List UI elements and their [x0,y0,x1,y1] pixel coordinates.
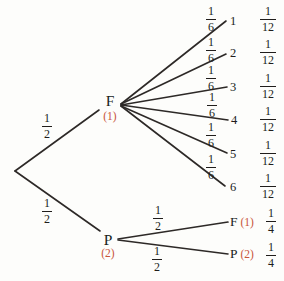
node-p-tag: (2) [101,248,114,260]
leaf-f-label: F (1) [230,215,254,229]
probability-tree-diagram: 1 2 1 2 F (1) P (2) 1 6 1 1 12 1 6 2 1 1… [0,0,284,281]
p-branch-p-result-probability: 1 4 [266,241,276,269]
outcome-5-label: 5 [230,148,236,161]
node-p-label: P [104,232,113,248]
f-branch-5-result-probability: 1 12 [260,139,276,167]
branch-root-to-p [15,171,100,231]
node-f-label: F [106,93,115,109]
branch-p-to-f [118,222,228,239]
f-branch-3-probability: 1 6 [206,64,216,92]
f-branch-6-probability: 1 6 [206,153,216,181]
f-branch-2-probability: 1 6 [206,36,216,64]
outcome-6-label: 6 [230,181,236,194]
leaf-p-label: P (2) [230,247,254,261]
root-down-probability-fraction: 1 2 [42,197,52,225]
outcome-3-label: 3 [230,81,236,94]
root-up-probability-fraction: 1 2 [42,112,52,140]
outcome-4-label: 4 [231,114,237,127]
f-branch-3-result-probability: 1 12 [260,72,276,100]
f-branch-4-probability: 1 6 [207,91,217,119]
branch-p-to-p [118,240,228,254]
f-branch-2-result-probability: 1 12 [260,38,276,66]
leaf-p-letter: P [230,247,238,261]
f-branch-1-result-probability: 1 12 [260,5,276,33]
tree-branch-lines [0,0,284,281]
p-branch-f-result-probability: 1 4 [266,207,276,235]
p-branch-p-probability: 1 2 [152,245,162,273]
node-f-tag: (1) [103,111,116,123]
leaf-f-letter: F [230,215,238,229]
leaf-f-tag: (1) [241,217,254,229]
f-branch-5-probability: 1 6 [206,121,216,149]
outcome-1-label: 1 [230,15,236,28]
f-branch-4-result-probability: 1 12 [260,105,276,133]
branch-root-to-f [15,110,99,171]
leaf-p-tag: (2) [241,249,254,261]
outcome-2-label: 2 [230,47,236,60]
f-branch-1-probability: 1 6 [206,5,216,33]
f-branch-6-result-probability: 1 12 [260,172,276,200]
p-branch-f-probability: 1 2 [153,204,163,232]
